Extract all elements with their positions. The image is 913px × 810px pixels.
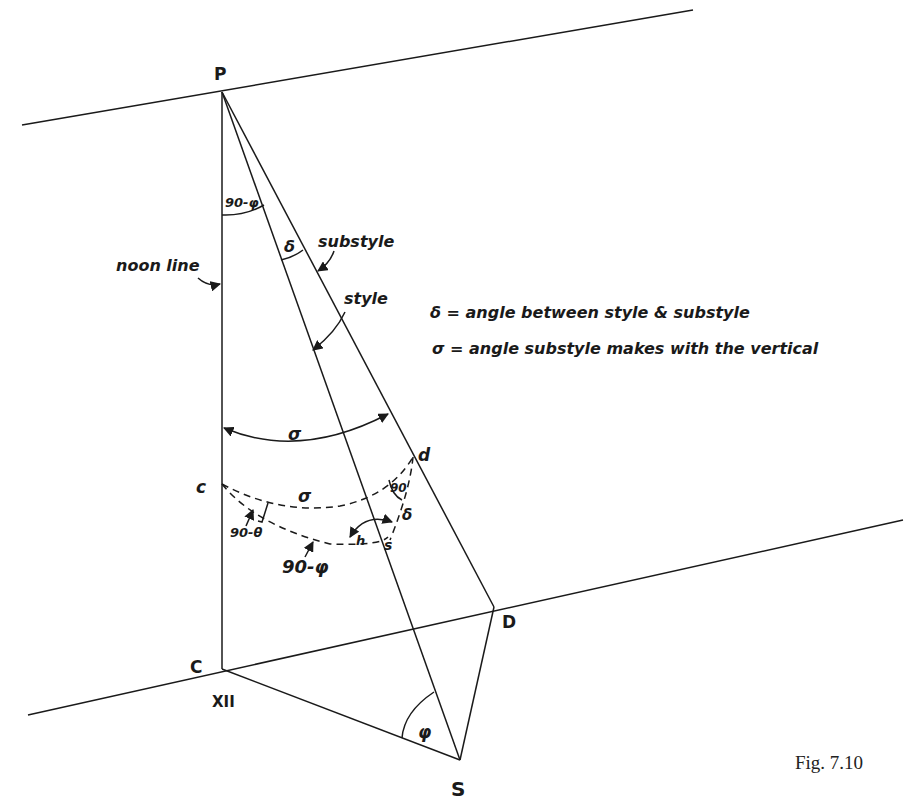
phi-pointer xyxy=(305,542,313,557)
angle-90-theta-mark xyxy=(258,503,268,522)
figure-caption: Fig. 7.10 xyxy=(795,752,863,774)
substyle-pointer xyxy=(318,251,334,271)
angle-90-minus-phi-top: 90-φ xyxy=(225,195,259,210)
sundial-geometry-diagram: P C XII D S c d s noon line substyle sty… xyxy=(0,0,913,810)
style-pointer xyxy=(313,312,345,350)
angle-90-minus-theta: 90-θ xyxy=(230,525,262,540)
delta-top-label: δ xyxy=(284,237,295,256)
legend-delta-definition: δ = angle between style & substyle xyxy=(430,303,750,322)
line-DS xyxy=(460,607,494,760)
right-angle-label: 90 xyxy=(390,481,407,495)
point-XII-label: XII xyxy=(212,693,235,711)
point-P-label: P xyxy=(214,64,226,84)
point-s-label: s xyxy=(384,537,392,553)
dashed-arc-d-s xyxy=(390,457,413,540)
point-D-label: D xyxy=(502,612,516,632)
point-S-label: S xyxy=(451,777,465,801)
line-CS xyxy=(222,669,460,760)
style-line-PS xyxy=(222,92,460,760)
phi-label: φ xyxy=(418,722,431,742)
upper-plane-line xyxy=(22,10,693,125)
point-d-label: d xyxy=(418,445,431,465)
sigma-big-label: σ xyxy=(288,424,302,444)
point-C-label: C xyxy=(190,657,202,677)
dashed-arc-c-d xyxy=(222,457,413,508)
noon-line-pointer xyxy=(198,278,220,285)
delta-small-label: δ xyxy=(402,506,412,524)
lower-plane-line xyxy=(28,520,903,715)
substyle-label: substyle xyxy=(318,232,394,251)
noon-line-label: noon line xyxy=(116,256,200,275)
point-c-label: c xyxy=(196,477,206,497)
angle-90-minus-phi-bottom: 90-φ xyxy=(282,556,329,577)
legend-sigma-definition: σ = angle substyle makes with the vertic… xyxy=(432,339,819,358)
h-label: h xyxy=(356,533,365,548)
style-label: style xyxy=(344,289,388,308)
sigma-small-label: σ xyxy=(298,486,312,506)
sigma-arc xyxy=(224,414,388,441)
theta-pointer xyxy=(246,510,253,526)
